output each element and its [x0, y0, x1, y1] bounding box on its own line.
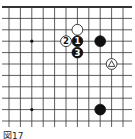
black-stone: [95, 36, 106, 47]
white-stone: [72, 24, 83, 35]
hoshi-point: [30, 108, 33, 111]
hoshi-point: [30, 40, 33, 43]
move-number-label: 1: [74, 36, 80, 46]
move-number-label: 3: [74, 48, 80, 58]
black-stone: [95, 104, 106, 115]
go-board: 213: [0, 0, 135, 139]
diagram-caption: 図17: [3, 131, 23, 139]
move-number-label: 2: [63, 36, 69, 46]
